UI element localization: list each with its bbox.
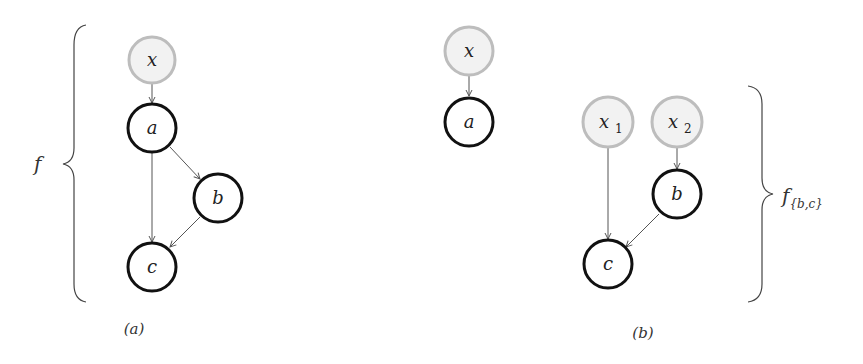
svg-text:x: x [147, 49, 157, 70]
svg-text:c: c [603, 253, 613, 274]
svg-text:x: x [668, 111, 678, 132]
svg-text:c: c [147, 256, 157, 277]
svg-text:x: x [599, 111, 609, 132]
caption-b: (b) [632, 324, 653, 342]
panel-a: f x a b c (a) [32, 25, 242, 338]
diagram-canvas: f x a b c (a) [0, 0, 863, 364]
svg-text:b: b [671, 183, 683, 204]
right-brace [748, 86, 773, 302]
node-a: a [445, 98, 493, 146]
node-x-observed: x [129, 37, 175, 83]
node-b: b [653, 170, 701, 218]
edge-b-c [170, 217, 200, 247]
node-c: c [128, 243, 176, 291]
node-b: b [194, 174, 242, 222]
edge-a-b [170, 147, 200, 179]
svg-text:x: x [464, 40, 474, 61]
node-c: c [584, 240, 632, 288]
node-x2-observed: x 2 [652, 97, 702, 147]
svg-text:b: b [212, 187, 224, 208]
node-x1-observed: x 1 [583, 97, 633, 147]
left-brace [63, 25, 86, 302]
brace-label-f-bc: f{b,c} [780, 184, 823, 211]
node-x-observed: x [445, 27, 493, 75]
svg-text:1: 1 [615, 122, 623, 136]
svg-text:2: 2 [684, 122, 692, 136]
node-a: a [128, 104, 176, 152]
panel-b: x a x 1 x 2 b c f{b,c} (b) [445, 27, 823, 342]
caption-a: (a) [124, 320, 145, 338]
edge-b-c [626, 214, 659, 247]
svg-text:a: a [147, 117, 158, 138]
svg-text:a: a [464, 111, 475, 132]
brace-label-f: f [32, 152, 45, 176]
